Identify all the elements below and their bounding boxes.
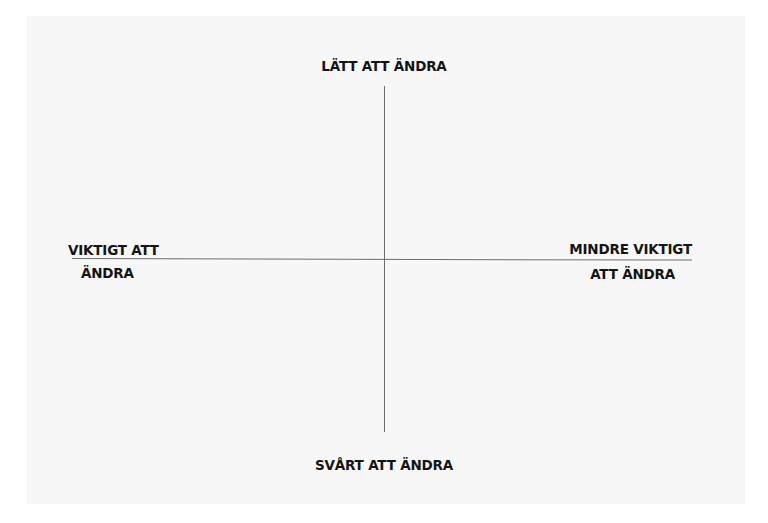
- axis-label-less-important-line-1: MINDRE VIKTIGT: [569, 241, 692, 257]
- page: LÄTT ATT ÄNDRA SVÅRT ATT ÄNDRA VIKTIGT A…: [0, 0, 768, 523]
- axis-label-important-line-2: ÄNDRA: [81, 265, 134, 281]
- axis-label-important-line-1: VIKTIGT ATT: [68, 242, 159, 258]
- axis-label-less-important-line-2: ATT ÄNDRA: [590, 266, 675, 282]
- axis-label-hard-to-change: SVÅRT ATT ÄNDRA: [0, 457, 768, 473]
- axis-label-easy-to-change: LÄTT ATT ÄNDRA: [0, 58, 768, 74]
